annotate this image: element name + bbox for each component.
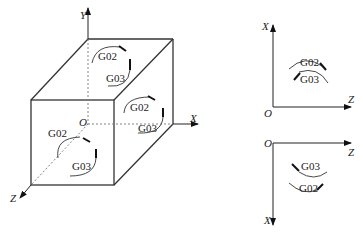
origin-label: O [79,116,87,128]
lower-g02-label: G02 [299,182,318,194]
front-face-g03: G03 [72,160,91,172]
x-axis-label: X [189,112,198,124]
z-axis-arrow [20,185,31,198]
front-face-g02: G02 [48,127,67,139]
y-axis-label: Y [80,9,88,21]
cube-edge [31,39,88,100]
cube-axes [20,8,198,198]
lower-origin-label: O [264,137,272,149]
upper-g02-label: G02 [300,56,319,68]
right-face-g03: G03 [138,122,157,134]
z-axis-label: Z [10,192,17,204]
lower-g03-label: G03 [301,160,320,172]
lower-x-label: X [263,214,272,226]
lower-z-label: Z [348,146,355,158]
upper-g03-label: G03 [300,73,319,85]
diagram-canvas: Y X Z O G02 G03 G02 G03 G02 G03 X Z O [0,0,363,237]
top-face-g02: G02 [98,50,117,62]
upper-x-label: X [261,20,270,32]
upper-origin-label: O [264,107,272,119]
upper-z-label: Z [348,93,355,105]
top-face-g03: G03 [106,72,125,84]
right-face-g02: G02 [130,101,149,113]
